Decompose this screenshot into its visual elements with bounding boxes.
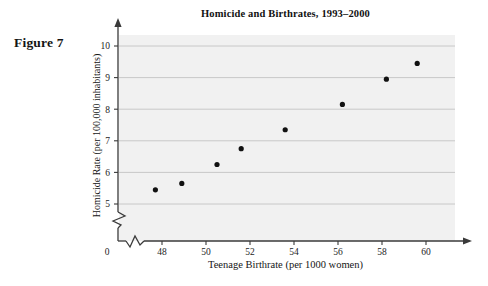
data-point	[239, 146, 244, 151]
data-point	[384, 77, 389, 82]
data-point	[415, 61, 420, 66]
y-tick-label: 7	[105, 136, 110, 146]
y-tick-label: 10	[101, 41, 111, 51]
y-tick-label: 5	[105, 199, 110, 209]
y-tick-label: 6	[105, 168, 110, 178]
x-tick-label: 56	[333, 247, 343, 257]
x-tick-label: 50	[201, 247, 211, 257]
data-point	[179, 181, 184, 186]
data-point	[214, 162, 219, 167]
x-tick-label: 58	[377, 247, 387, 257]
x-tick-label: 0	[105, 247, 110, 257]
x-tick-label: 54	[289, 247, 299, 257]
figure-container: Figure 7 Homicide and Birthrates, 1993–2…	[0, 0, 488, 286]
y-tick-label: 9	[105, 73, 110, 83]
x-tick-label: 52	[245, 247, 255, 257]
plot-background	[119, 35, 455, 241]
data-point	[283, 127, 288, 132]
scatter-plot: 5678910048505254565860	[0, 0, 488, 286]
y-tick-label: 8	[105, 105, 110, 115]
data-point	[153, 187, 158, 192]
x-tick-label: 48	[157, 247, 167, 257]
x-tick-label: 60	[421, 247, 431, 257]
data-point	[340, 102, 345, 107]
